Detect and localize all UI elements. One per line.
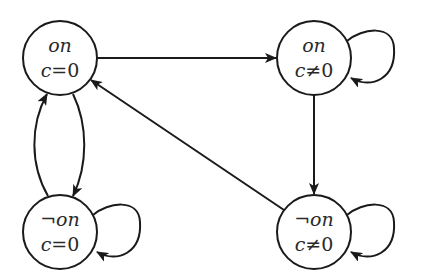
state-node-on-c-neq-0: on c≠0	[277, 21, 351, 95]
state-circle	[23, 195, 97, 269]
state-label-line1: ¬on	[294, 208, 334, 230]
self-loop-on-cne0	[347, 31, 394, 83]
state-diagram: on c=0 on c≠0 ¬on c=0 ¬on c≠0	[0, 0, 421, 278]
state-circle	[23, 21, 97, 95]
state-circle	[277, 21, 351, 95]
edge-on-c0-to-not-on-c0	[73, 94, 84, 196]
state-node-on-c-eq-0: on c=0	[23, 21, 97, 95]
state-circle	[277, 195, 351, 269]
state-node-not-on-c-neq-0: ¬on c≠0	[277, 195, 351, 269]
state-label-line1: ¬on	[40, 208, 80, 230]
edge-not-on-c0-to-on-c0	[34, 94, 48, 196]
state-label-line2: c≠0	[295, 233, 334, 255]
state-label-line2: c=0	[41, 233, 80, 255]
state-label-line2: c≠0	[295, 59, 334, 81]
state-label-line2: c=0	[41, 59, 80, 81]
self-loop-not-on-c0	[93, 205, 140, 257]
self-loop-not-on-cne0	[347, 205, 394, 257]
edge-not-on-cne0-to-on-c0	[91, 80, 284, 210]
state-label-line1: on	[302, 34, 326, 56]
state-node-not-on-c-eq-0: ¬on c=0	[23, 195, 97, 269]
state-label-line1: on	[48, 34, 72, 56]
